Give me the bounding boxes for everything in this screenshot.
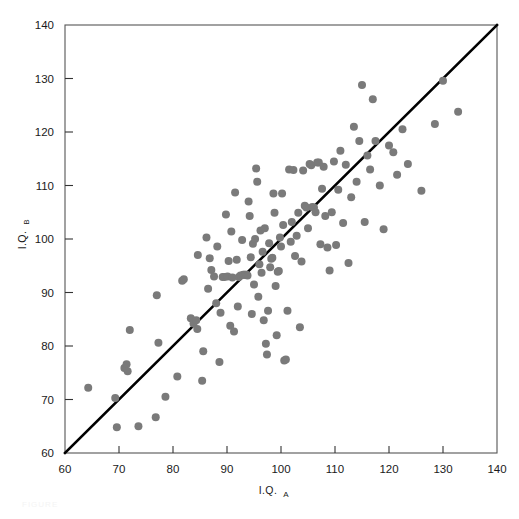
scatter-point — [326, 267, 334, 275]
scatter-point — [404, 160, 412, 168]
scatter-point — [372, 137, 380, 145]
scatter-point — [380, 225, 388, 233]
scatter-point — [393, 171, 401, 179]
scatter-point — [277, 242, 285, 250]
scatter-point — [212, 299, 220, 307]
scatter-point — [111, 394, 119, 402]
x-tick-label: 110 — [326, 463, 344, 475]
scatter-point — [198, 377, 206, 385]
x-tick-label: 140 — [487, 463, 506, 475]
y-axis-tick-labels: 60708090100110120130140 — [35, 19, 54, 459]
scatter-point — [173, 372, 181, 380]
x-tick-label: 70 — [113, 463, 126, 475]
scatter-point — [248, 310, 256, 318]
scatter-point — [339, 219, 347, 227]
y-tick-label: 140 — [35, 19, 54, 31]
scatter-point — [376, 182, 384, 190]
scatter-point — [385, 141, 393, 149]
scatter-point — [304, 224, 312, 232]
scatter-point — [328, 208, 336, 216]
scatter-point — [261, 224, 269, 232]
y-axis-ticks — [65, 79, 73, 400]
x-axis-title-subscript: A — [283, 490, 289, 499]
scatter-point — [342, 161, 350, 169]
scatter-point — [298, 257, 306, 265]
scatter-point — [251, 235, 259, 243]
scatter-point — [215, 358, 223, 366]
x-tick-label: 80 — [167, 463, 180, 475]
scatter-point — [202, 233, 210, 241]
scatter-point — [222, 210, 230, 218]
y-axis-title-main: I.Q. — [16, 231, 28, 250]
scatter-point — [272, 282, 280, 290]
scatter-point — [316, 240, 324, 248]
scatter-point — [454, 108, 462, 116]
x-tick-label: 60 — [59, 463, 72, 475]
scatter-point — [238, 236, 246, 244]
scatter-point — [355, 137, 363, 145]
scatter-point — [299, 167, 307, 175]
scatter-point — [230, 328, 238, 336]
y-tick-label: 70 — [41, 394, 54, 406]
scatter-point — [289, 166, 297, 174]
scatter-point — [271, 209, 279, 217]
scatter-point — [245, 198, 253, 206]
scatter-point — [255, 260, 263, 268]
scatter-point — [269, 190, 277, 198]
scatter-point — [312, 208, 320, 216]
scatter-point — [210, 272, 218, 280]
scatter-point — [264, 307, 272, 315]
scatter-point — [84, 384, 92, 392]
y-tick-label: 120 — [35, 126, 54, 138]
scatter-point — [350, 123, 358, 131]
y-axis-title-subscript: B — [22, 219, 31, 224]
scatter-point — [358, 81, 366, 89]
scatter-point — [217, 309, 225, 317]
scatter-point — [366, 165, 374, 173]
scatter-point — [334, 186, 342, 194]
y-tick-label: 60 — [41, 447, 54, 459]
scatter-point — [278, 190, 286, 198]
scatter-point — [247, 253, 255, 261]
scatter-point — [254, 293, 262, 301]
scatter-point — [323, 244, 331, 252]
scatter-figure: 60708090100110120130140 6070809010011012… — [0, 0, 519, 519]
scatter-point — [260, 316, 268, 324]
scatter-point — [347, 193, 355, 201]
scatter-point — [227, 228, 235, 236]
scatter-point — [234, 302, 242, 310]
x-axis-title: I.Q. A — [259, 484, 290, 499]
scatter-point — [192, 316, 200, 324]
scatter-point — [246, 212, 254, 220]
scatter-point — [154, 339, 162, 347]
scatter-point — [318, 185, 326, 193]
scatter-point — [263, 351, 271, 359]
scatter-point — [199, 347, 207, 355]
scatter-point — [180, 275, 188, 283]
scatter-point — [283, 307, 291, 315]
x-tick-label: 90 — [221, 463, 234, 475]
y-tick-label: 100 — [35, 233, 54, 245]
scatter-point — [369, 95, 377, 103]
scatter-point — [275, 267, 283, 275]
scatter-point — [253, 178, 261, 186]
scatter-point — [124, 367, 132, 375]
x-tick-label: 100 — [271, 463, 290, 475]
scatter-point — [225, 257, 233, 265]
scatter-point — [279, 221, 287, 229]
scatter-point — [330, 157, 338, 165]
scatter-point — [345, 259, 353, 267]
scatter-point — [320, 163, 328, 171]
scatter-point — [431, 120, 439, 128]
scatter-point — [332, 241, 340, 249]
scatter-point — [296, 323, 304, 331]
scatter-point — [213, 242, 221, 250]
x-tick-label: 120 — [379, 463, 398, 475]
scatter-point — [206, 254, 214, 262]
scatter-point — [291, 252, 299, 260]
x-axis-tick-labels: 60708090100110120130140 — [59, 463, 507, 475]
scatter-point — [276, 233, 284, 241]
scatter-point — [231, 188, 239, 196]
scatter-point — [439, 77, 447, 85]
scatter-point — [126, 326, 134, 334]
